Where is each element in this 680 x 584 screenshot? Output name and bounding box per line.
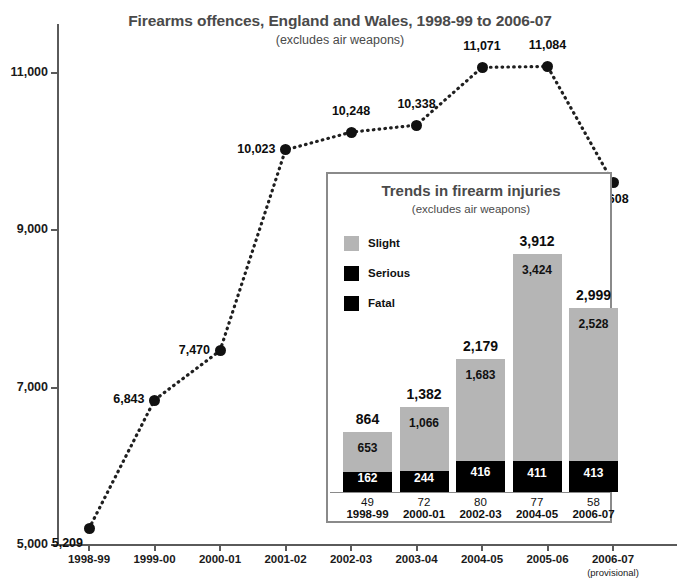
bar-value-serious: 244 (400, 471, 449, 485)
legend-swatch-slight (344, 236, 359, 251)
data-point-label: 5,209 (0, 536, 83, 550)
bar-segment-slight (513, 254, 562, 461)
inset-subtitle: (excludes air weapons) (328, 203, 614, 215)
data-point-marker (149, 395, 160, 406)
inset-x-label: 2000-01 (394, 508, 455, 520)
data-point-label: 6,843 (0, 392, 145, 406)
data-point-label: 10,023 (0, 142, 276, 156)
bar-value-fatal: 77 (513, 496, 562, 508)
bar-total-label: 3,912 (507, 233, 568, 249)
bar-value-slight: 653 (343, 441, 392, 455)
legend-swatch-serious (344, 266, 359, 281)
legend-label-serious: Serious (368, 267, 410, 279)
inset-x-label: 2006-07 (563, 508, 624, 520)
data-point-marker (477, 62, 488, 73)
bar-value-slight: 3,424 (513, 263, 562, 277)
bar-value-serious: 413 (569, 466, 618, 480)
data-point-marker (346, 127, 357, 138)
bar-value-serious: 411 (513, 466, 562, 480)
legend-label-fatal: Fatal (368, 297, 395, 309)
inset-x-label: 2004-05 (507, 508, 568, 520)
data-point-label: 11,084 (503, 38, 593, 52)
legend-label-slight: Slight (368, 237, 400, 249)
data-point-marker (542, 61, 553, 72)
legend-swatch-fatal (344, 296, 359, 311)
data-point-label: 10,338 (372, 97, 462, 111)
bar-value-fatal: 72 (400, 496, 449, 508)
inset-x-label: 2002-03 (450, 508, 511, 520)
inset-title: Trends in firearm injuries (328, 182, 614, 199)
bar-value-slight: 1,683 (456, 368, 505, 382)
data-point-marker (215, 345, 226, 356)
bar-value-fatal: 49 (343, 496, 392, 508)
inset-chart-panel: Trends in firearm injuries (excludes air… (326, 172, 612, 523)
bar-value-serious: 416 (456, 465, 505, 479)
data-point-marker (411, 120, 422, 131)
bar-total-label: 2,999 (563, 287, 624, 303)
bar-total-label: 2,179 (450, 338, 511, 354)
bar-value-slight: 1,066 (400, 416, 449, 430)
firearms-chart: Firearms offences, England and Wales, 19… (0, 0, 680, 584)
inset-x-label: 1998-99 (337, 508, 398, 520)
bar-total-label: 1,382 (394, 386, 455, 402)
data-point-label: 7,470 (0, 343, 210, 357)
data-point-marker (84, 523, 95, 534)
bar-value-fatal: 58 (569, 496, 618, 508)
bar-value-slight: 2,528 (569, 317, 618, 331)
bar-total-label: 864 (337, 411, 398, 427)
inset-axis-rule (330, 492, 612, 493)
bar-value-fatal: 80 (456, 496, 505, 508)
bar-value-serious: 162 (343, 471, 392, 485)
